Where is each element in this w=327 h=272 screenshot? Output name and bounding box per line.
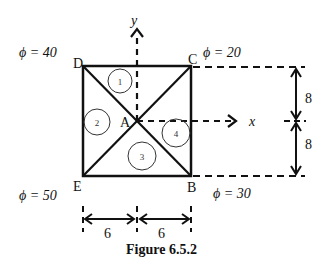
region-label-3: 3 xyxy=(140,152,145,162)
node-label-b: B xyxy=(187,180,196,195)
dim-label-horizontal-left: 6 xyxy=(104,226,111,241)
phi-label-e: ϕ = 50 xyxy=(19,188,57,203)
dim-label-horizontal-right: 6 xyxy=(158,226,165,241)
y-axis-label: y xyxy=(129,13,138,28)
figure-caption: Figure 6.5.2 xyxy=(126,242,197,257)
phi-label-b: ϕ = 30 xyxy=(213,186,251,201)
node-label-e: E xyxy=(73,179,82,194)
region-label-4: 4 xyxy=(174,129,179,139)
node-label-c: C xyxy=(188,52,197,67)
finite-element-diagram: 1 2 3 4 D C E B A ϕ = 40 ϕ = 20 ϕ = 50 ϕ… xyxy=(0,0,327,272)
node-label-a: A xyxy=(120,115,131,130)
dim-label-vertical-bottom: 8 xyxy=(305,137,312,152)
region-label-2: 2 xyxy=(95,118,100,128)
node-label-d: D xyxy=(73,56,83,71)
dim-label-vertical-top: 8 xyxy=(305,91,312,106)
region-label-1: 1 xyxy=(118,77,123,87)
phi-label-d: ϕ = 40 xyxy=(19,45,57,60)
x-axis-label: x xyxy=(248,114,256,129)
phi-label-c: ϕ = 20 xyxy=(203,45,241,60)
y-axis-arrowhead-icon xyxy=(131,29,143,37)
